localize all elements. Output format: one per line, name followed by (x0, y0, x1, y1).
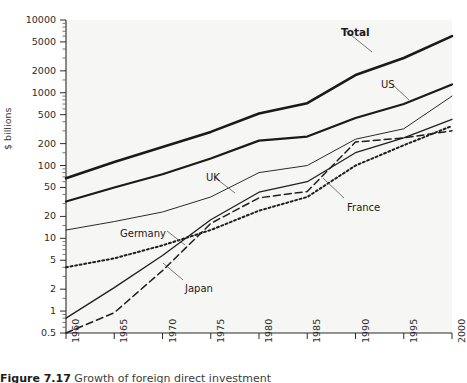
y-tick-label: 5000 (12, 36, 56, 47)
y-tick-label: 10000 (12, 14, 56, 25)
plot-background (66, 20, 452, 333)
y-tick-label: 1000 (12, 87, 56, 98)
series-label-us: US (381, 79, 395, 90)
series-label-germany: Germany (120, 228, 166, 239)
series-label-uk: UK (206, 172, 220, 183)
y-tick-label: 50 (12, 181, 56, 192)
y-tick-label: 100 (12, 160, 56, 171)
x-tick-label: 1975 (215, 319, 226, 343)
series-label-france: France (347, 202, 380, 213)
x-tick-label: 1970 (167, 319, 178, 343)
figure-caption: Figure 7.17 Growth of foreign direct inv… (0, 372, 464, 383)
caption-text: Growth of foreign direct investment (74, 372, 271, 383)
x-tick-label: 1960 (70, 319, 81, 343)
x-tick-label: 1980 (263, 319, 274, 343)
series-label-japan: Japan (185, 283, 213, 294)
y-tick-label: 2000 (12, 65, 56, 76)
y-tick-label: 0.5 (12, 327, 56, 338)
x-tick-label: 1965 (118, 319, 129, 343)
y-tick-label: 1 (12, 305, 56, 316)
caption-number: Figure 7.17 (0, 372, 71, 383)
y-tick-label: 10 (12, 232, 56, 243)
y-tick-label: 20 (12, 210, 56, 221)
y-tick-label: 500 (12, 109, 56, 120)
x-tick-label: 1995 (408, 319, 419, 343)
x-tick-label: 2000 (456, 319, 467, 343)
y-tick-label: 2 (12, 283, 56, 294)
x-tick-label: 1985 (311, 319, 322, 343)
y-tick-label: 200 (12, 138, 56, 149)
x-tick-label: 1990 (360, 319, 371, 343)
series-label-total: Total (341, 26, 370, 38)
y-tick-label: 5 (12, 254, 56, 265)
